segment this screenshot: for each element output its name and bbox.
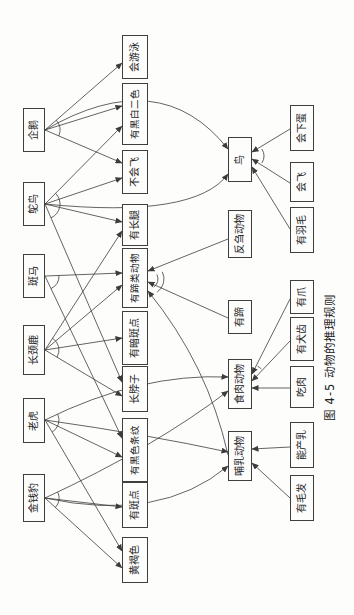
diagram-node-tawny: 黄褐色 [122, 537, 148, 583]
edge-canine-to-carnivore [252, 341, 290, 381]
diagram-node-spots: 有斑点 [122, 482, 148, 528]
diagram-node-darkspots: 有暗斑点 [122, 311, 148, 365]
diagram-node-cud: 反刍动物 [228, 210, 252, 258]
diagram-node-canine: 有犬齿 [290, 317, 314, 361]
edge-giraffe-to-ungulate [45, 285, 122, 350]
edge-penguin-to-swim [45, 63, 122, 130]
diagram-node-cantfly: 不会飞 [122, 150, 148, 194]
and-arc-carnivore [258, 366, 262, 369]
diagram-node-swim: 会游泳 [122, 35, 148, 79]
diagram-node-ostrich: 鸵鸟 [23, 182, 45, 226]
diagram-node-tiger: 老虎 [23, 398, 45, 443]
diagram-node-neck: 长脖子 [122, 366, 148, 412]
diagram-node-penguin: 企鹅 [23, 108, 45, 152]
and-arc-bird [262, 149, 264, 163]
edge-feathers-to-bird [252, 167, 290, 229]
diagram-node-carnivore: 食肉动物 [228, 359, 252, 409]
diagram-node-zebra: 斑马 [23, 254, 45, 298]
edge-mammal-to-ungulate [148, 291, 228, 455]
diagram-node-bird: 鸟 [228, 137, 252, 182]
edge-milk-to-mammal [252, 447, 290, 449]
diagram-node-milk: 能产乳 [290, 422, 314, 468]
edge-eggs-to-bird [252, 129, 290, 152]
figure-caption: 图 4-5 动物的推理规则 [321, 250, 339, 465]
diagram-node-stripes: 有黑色条纹 [122, 418, 148, 482]
edge-hoofs-to-ungulate [148, 282, 228, 318]
edge-penguin-to-cantfly [45, 130, 122, 163]
diagram-node-legs: 有长腿 [122, 204, 148, 246]
diagram-node-leopard: 金钱豹 [23, 474, 45, 522]
and-arc-zebra [51, 276, 59, 289]
edge-claws-to-carnivore [252, 299, 290, 374]
edge-ostrich-to-neck [45, 204, 122, 382]
edge-fly-to-bird [252, 159, 290, 183]
diagram-node-hoofs: 有蹄 [228, 300, 252, 334]
edge-zebra-to-ungulate [45, 273, 122, 276]
edge-hair-to-mammal [252, 463, 290, 498]
edge-cud-to-ungulate [148, 239, 228, 271]
diagram-node-eggs: 会下蛋 [290, 105, 314, 151]
edge-ostrich-to-cantfly [45, 178, 122, 204]
diagram-node-mammal: 哺乳动物 [228, 431, 252, 481]
and-arc-ungulate [154, 275, 158, 288]
book-figure-screenshot: 金钱豹老虎长颈鹿斑马鸵鸟企鹅黄褐色有斑点有黑色条纹长脖子有暗斑点有蹄类动物有长腿… [0, 0, 354, 615]
and-arc-tiger [52, 414, 59, 432]
diagram-node-feathers: 有羽毛 [290, 207, 314, 253]
edge-tiger-to-tawny [45, 420, 122, 551]
and-arc-penguin [56, 120, 60, 136]
diagram-node-fly: 会飞 [290, 162, 314, 202]
edge-ostrich-to-bw [45, 126, 122, 204]
rotated-page: 金钱豹老虎长颈鹿斑马鸵鸟企鹅黄褐色有斑点有黑色条纹长脖子有暗斑点有蹄类动物有长腿… [0, 0, 354, 615]
diagram-node-giraffe: 长颈鹿 [23, 325, 45, 375]
diagram-node-bw: 有黑白二色 [122, 83, 148, 145]
diagram-node-hair: 有毛发 [290, 475, 314, 521]
edge-leopard-to-tawny [45, 498, 122, 568]
edge-penguin-to-bw [45, 106, 122, 130]
diagram-node-meat: 吃肉 [290, 366, 314, 408]
diagram-node-claws: 有爪 [290, 280, 314, 314]
diagram-node-ungulate: 有蹄类动物 [122, 248, 148, 308]
edge-giraffe-to-legs [45, 231, 122, 350]
